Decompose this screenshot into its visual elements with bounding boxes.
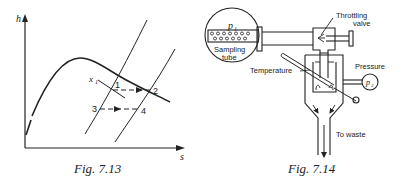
- y-axis-label: h: [16, 13, 21, 24]
- hs-diagram: [22, 14, 185, 151]
- point-1-label: 1: [115, 80, 120, 90]
- quality-label-sub: 1: [95, 79, 98, 85]
- p1-label: p: [227, 20, 233, 31]
- saturation-curve: [26, 58, 170, 135]
- sampling-tube-label-2: tube: [222, 53, 237, 62]
- sampling-holes: [211, 32, 250, 40]
- figure-canvas: h s x 1 1 2 3 4: [0, 0, 401, 189]
- quality-label-x: x: [88, 74, 93, 84]
- figure-caption-7-14: Fig. 7.14: [288, 161, 335, 177]
- isobar-line-1: [85, 20, 147, 134]
- isobar-line-2: [115, 49, 175, 142]
- x-axis-label: s: [180, 151, 184, 162]
- figure-caption-7-13: Fig. 7.13: [74, 161, 121, 177]
- pressure-gauge-p2: [362, 74, 378, 90]
- pressure-label: Pressure: [355, 62, 385, 71]
- p2-label-sub: 2: [371, 83, 374, 88]
- arrow-3-4-icon: [114, 106, 121, 112]
- temperature-pointer: [300, 70, 310, 71]
- y-axis-arrow-icon: [22, 14, 28, 22]
- valve-seat: [318, 34, 325, 42]
- point-2-label: 2: [153, 86, 158, 96]
- point-3-label: 3: [92, 104, 97, 114]
- p2-label: p: [365, 78, 370, 87]
- throttling-valve-label-2: valve: [353, 19, 371, 28]
- valve-pointer: [321, 18, 333, 35]
- quality-line-x1: [98, 80, 125, 98]
- temperature-label: Temperature: [250, 66, 292, 75]
- point-4-label: 4: [141, 106, 146, 116]
- valve-handle: [349, 31, 353, 46]
- p1-label-sub: 1: [234, 26, 237, 32]
- hs-diagram-labels: h s x 1 1 2 3 4: [16, 13, 184, 162]
- to-waste-label: To waste: [336, 130, 366, 139]
